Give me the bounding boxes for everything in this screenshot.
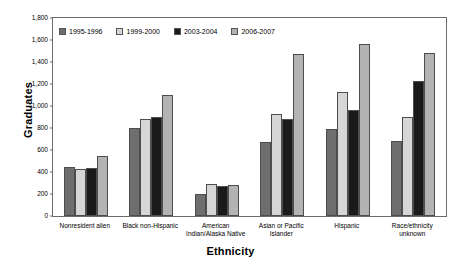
bar[interactable] <box>271 114 282 216</box>
x-category-label: Black non-Hispanic <box>118 222 184 230</box>
bar[interactable] <box>359 44 370 216</box>
bar-group <box>250 18 316 216</box>
bar-chart: Graduates 1995-19961999-20002003-2004200… <box>0 0 461 268</box>
x-axis-title: Ethnicity <box>0 245 461 257</box>
bar-group <box>119 18 185 216</box>
legend-entry[interactable]: 2006-2007 <box>231 28 274 35</box>
legend-swatch-icon <box>116 28 123 35</box>
bar[interactable] <box>282 119 293 216</box>
bar[interactable] <box>64 167 75 217</box>
x-category-label: Asian or PacificIslander <box>249 222 315 238</box>
x-category-label: Hispanic <box>314 222 380 230</box>
bar-group <box>53 18 119 216</box>
x-category-label-line: Hispanic <box>314 222 380 230</box>
bar[interactable] <box>97 156 108 217</box>
legend-label: 1999-2000 <box>126 28 159 35</box>
bar[interactable] <box>326 129 337 216</box>
legend-swatch-icon <box>231 28 238 35</box>
chart-legend: 1995-19961999-20002003-20042006-2007 <box>59 28 275 35</box>
bar[interactable] <box>140 119 151 216</box>
x-category-label-line: American <box>183 222 249 230</box>
bar-group <box>315 18 381 216</box>
bar[interactable] <box>348 110 359 216</box>
legend-entry[interactable]: 1995-1996 <box>59 28 102 35</box>
x-category-label-line: Race/ethnicity <box>380 222 446 230</box>
bar[interactable] <box>129 128 140 216</box>
x-category-label: Race/ethnicityunknown <box>380 222 446 238</box>
bar[interactable] <box>260 142 271 216</box>
legend-entry[interactable]: 2003-2004 <box>174 28 217 35</box>
legend-label: 1995-1996 <box>69 28 102 35</box>
bar[interactable] <box>195 194 206 216</box>
x-category-label: AmericanIndian/Alaska Native <box>183 222 249 238</box>
bar[interactable] <box>162 95 173 216</box>
x-category-label-line: Islander <box>249 230 315 238</box>
bar[interactable] <box>75 169 86 216</box>
bar[interactable] <box>337 92 348 216</box>
bar[interactable] <box>413 81 424 216</box>
bar[interactable] <box>424 53 435 216</box>
bar[interactable] <box>293 54 304 216</box>
bar[interactable] <box>151 117 162 216</box>
bar[interactable] <box>86 168 97 216</box>
x-category-label-line: unknown <box>380 230 446 238</box>
bar[interactable] <box>228 185 239 216</box>
x-category-label-line: Nonresident alien <box>52 222 118 230</box>
legend-entry[interactable]: 1999-2000 <box>116 28 159 35</box>
x-category-label-line: Black non-Hispanic <box>118 222 184 230</box>
x-category-label-line: Indian/Alaska Native <box>183 230 249 238</box>
bar[interactable] <box>402 117 413 216</box>
plot-area: 1995-19961999-20002003-20042006-2007 1,8… <box>52 17 447 217</box>
x-category-label-line: Asian or Pacific <box>249 222 315 230</box>
x-category-label: Nonresident alien <box>52 222 118 230</box>
legend-swatch-icon <box>174 28 181 35</box>
legend-swatch-icon <box>59 28 66 35</box>
legend-label: 2003-2004 <box>184 28 217 35</box>
legend-label: 2006-2007 <box>241 28 274 35</box>
bar-group <box>381 18 447 216</box>
bars-layer <box>53 18 446 216</box>
bar[interactable] <box>391 141 402 216</box>
bar[interactable] <box>217 186 228 216</box>
bar[interactable] <box>206 184 217 216</box>
bar-group <box>184 18 250 216</box>
